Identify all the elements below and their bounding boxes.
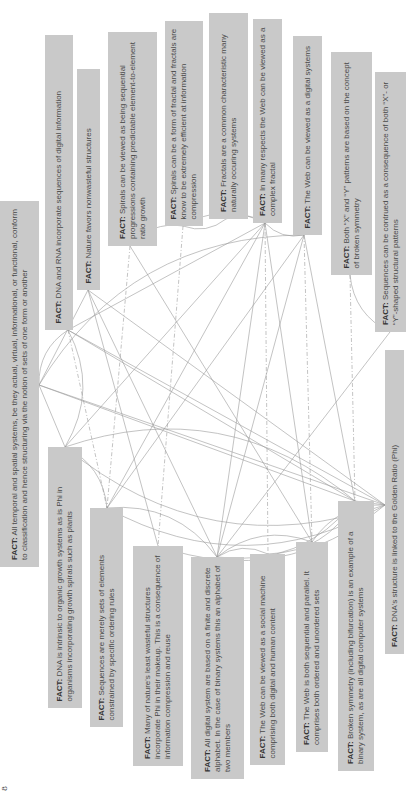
connection-line bbox=[265, 223, 312, 542]
fact-text: FACT: Sequences can be contrued as a con… bbox=[380, 75, 400, 329]
fact-text: FACT: The Web can be viewed as a social … bbox=[257, 557, 277, 762]
fact-label: FACT: bbox=[218, 189, 227, 212]
fact-text: FACT: All temporal and spatial systems, … bbox=[9, 204, 29, 564]
fact-label: FACT: bbox=[169, 196, 178, 219]
connection-line bbox=[39, 385, 355, 501]
fact-body: Spirals can be a form of fractal and fra… bbox=[169, 28, 198, 219]
fact-box-broken-symmetry: FACT: Broken symmetry (including bifurca… bbox=[338, 501, 374, 771]
fact-label: FACT: bbox=[257, 735, 266, 758]
fact-label: FACT: bbox=[96, 697, 105, 720]
fact-label: FACT: bbox=[302, 205, 311, 228]
fact-body: Nature favors nonwasteful structures bbox=[83, 128, 92, 261]
connection-line bbox=[68, 330, 355, 501]
fact-box-spirals-fractal: FACT: Spirals can be a form of fractal a… bbox=[165, 21, 203, 226]
fact-text: FACT: In many respects the Web can be vi… bbox=[257, 22, 277, 220]
fact-text: FACT: Both “X” and “Y” patterns are base… bbox=[341, 55, 361, 272]
fact-box-fractals-common: FACT: Fractals are a common characterist… bbox=[209, 13, 248, 219]
fact-box-web-social: FACT: The Web can be viewed as a social … bbox=[250, 554, 285, 765]
connection-line bbox=[39, 385, 385, 505]
fact-body: Broken symmetry (including bifurcation) … bbox=[346, 531, 365, 764]
fact-text: FACT: Fractals are a common characterist… bbox=[218, 16, 238, 216]
fact-box-spirals-sequential: FACT: Spirals can be viewed as being seq… bbox=[108, 32, 157, 246]
connection-line bbox=[39, 385, 65, 447]
fact-label: FACT: bbox=[380, 302, 389, 325]
fact-label: FACT: bbox=[83, 260, 92, 283]
fact-body: The Web can be viewed as a digital syste… bbox=[302, 46, 311, 206]
fact-box-xy-patterns: FACT: Both “X” and “Y” patterns are base… bbox=[331, 52, 372, 275]
fact-text: FACT: All digital system are based on a … bbox=[202, 560, 233, 776]
fact-text: FACT: The Web can be viewed as a digital… bbox=[302, 39, 312, 232]
fact-box-web-sequential: FACT: The Web is both sequential and par… bbox=[296, 542, 328, 752]
fact-label: FACT: bbox=[143, 736, 152, 759]
fact-box-web-fractal: FACT: In many respects the Web can be vi… bbox=[253, 19, 282, 223]
fact-body: Sequences can be contrued as a consequen… bbox=[380, 82, 399, 325]
fact-body: In many respects the Web can be viewed a… bbox=[257, 28, 276, 216]
fact-label: FACT: bbox=[389, 624, 398, 647]
fact-text: FACT: DNA's structure is linked to the G… bbox=[389, 353, 399, 651]
fact-text: FACT: DNA and RNA incorporate sequences … bbox=[54, 38, 64, 327]
fact-label: FACT: bbox=[341, 245, 350, 268]
fact-body: Both “X” and “Y” patterns are based on t… bbox=[341, 62, 360, 268]
connection-line bbox=[107, 246, 130, 508]
fact-body: All temporal and spatial systems, be the… bbox=[9, 209, 28, 560]
page-number: 8 bbox=[0, 786, 9, 791]
connection-line bbox=[130, 246, 312, 542]
fact-box-digital-alphabet: FACT: All digital system are based on a … bbox=[191, 557, 244, 779]
fact-body: DNA and RNA incorporate sequences of dig… bbox=[54, 90, 63, 300]
fact-body: Fractals are a common characteristic man… bbox=[218, 34, 237, 212]
fact-body: The Web can be viewed as a social machin… bbox=[257, 575, 276, 758]
fact-body: The Web is both sequential and parallel.… bbox=[302, 571, 321, 745]
fact-body: DNA's structure is linked to the Golden … bbox=[389, 445, 398, 624]
fact-box-dna-rna: FACT: DNA and RNA incorporate sequences … bbox=[45, 35, 73, 330]
connection-line bbox=[107, 235, 304, 508]
fact-box-dna-golden: FACT: DNA's structure is linked to the G… bbox=[385, 350, 404, 654]
fact-label: FACT: bbox=[346, 741, 355, 764]
fact-body: DNA is intrinsic to organic growth syste… bbox=[55, 486, 74, 701]
fact-text: FACT: Sequences are merely sets of eleme… bbox=[96, 511, 116, 724]
fact-body: Many of nature's least wasteful structur… bbox=[143, 555, 172, 759]
fact-text: FACT: Spirals can be viewed as being seq… bbox=[117, 35, 148, 243]
connection-line bbox=[265, 223, 268, 554]
connection-line bbox=[68, 330, 385, 505]
fact-box-temporal: FACT: All temporal and spatial systems, … bbox=[0, 201, 39, 567]
fact-box-least-wasteful: FACT: Many of nature's least wasteful st… bbox=[133, 546, 183, 766]
fact-body: Spirals can be viewed as being sequentia… bbox=[117, 42, 146, 239]
connection-line bbox=[350, 275, 355, 501]
fact-label: FACT: bbox=[55, 678, 64, 701]
fact-text: FACT: Spirals can be a form of fractal a… bbox=[169, 24, 200, 223]
fact-body: All digital system are based on a finite… bbox=[202, 566, 231, 772]
fact-text: FACT: Broken symmetry (including bifurca… bbox=[346, 504, 366, 768]
connection-line bbox=[217, 223, 265, 557]
connection-line bbox=[65, 330, 83, 447]
concept-network-diagram: FACT: All temporal and spatial systems, … bbox=[0, 0, 416, 794]
fact-box-sequences-xy: FACT: Sequences can be contrued as a con… bbox=[375, 72, 406, 332]
fact-text: FACT: DNA is intrinsic to organic growth… bbox=[55, 450, 75, 705]
connection-line bbox=[217, 235, 304, 557]
fact-label: FACT: bbox=[257, 193, 266, 216]
fact-text: FACT: The Web is both sequential and par… bbox=[302, 545, 322, 749]
fact-box-dna-phi: FACT: DNA is intrinsic to organic growth… bbox=[48, 447, 82, 708]
fact-label: FACT: bbox=[54, 300, 63, 323]
fact-box-sequences-sets: FACT: Sequences are merely sets of eleme… bbox=[90, 508, 123, 727]
fact-text: FACT: Nature favors nonwasteful structur… bbox=[83, 72, 93, 287]
fact-box-nature-nonwasteful: FACT: Nature favors nonwasteful structur… bbox=[77, 69, 100, 290]
fact-box-web-digital: FACT: The Web can be viewed as a digital… bbox=[293, 36, 322, 235]
fact-label: FACT: bbox=[202, 749, 211, 772]
fact-label: FACT: bbox=[9, 537, 18, 560]
fact-body: Sequences are merely sets of elements co… bbox=[96, 555, 115, 720]
fact-label: FACT: bbox=[302, 722, 311, 745]
fact-label: FACT: bbox=[117, 216, 126, 239]
fact-text: FACT: Many of nature's least wasteful st… bbox=[143, 549, 174, 763]
